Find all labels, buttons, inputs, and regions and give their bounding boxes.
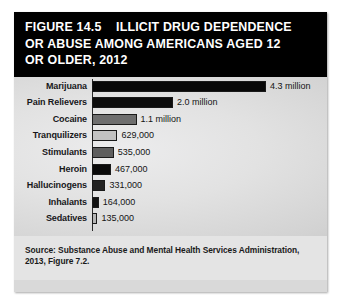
bar (92, 114, 137, 125)
bar-row: Pain Relievers2.0 million (14, 96, 327, 109)
figure-container: FIGURE 14.5 ILLICIT DRUG DEPENDENCE OR A… (14, 12, 327, 292)
bar-track: 135,000 (92, 212, 327, 225)
bar-track: 535,000 (92, 146, 327, 159)
bar-value-label: 2.0 million (173, 97, 218, 108)
bar-value-label: 535,000 (114, 147, 151, 158)
bar (92, 147, 114, 158)
bar-row: Heroin467,000 (14, 163, 327, 176)
bar-row: Hallucinogens331,000 (14, 179, 327, 192)
source-note: Source: Substance Abuse and Mental Healt… (25, 245, 315, 268)
bar-row: Cocaine1.1 million (14, 113, 327, 126)
bar (92, 164, 111, 175)
bar-category-label: Tranquilizers (14, 130, 92, 141)
bar-category-label: Stimulants (14, 147, 92, 158)
bar-value-label: 164,000 (99, 197, 136, 208)
source-panel: Source: Substance Abuse and Mental Healt… (14, 236, 327, 280)
bar-row: Marijuana4.3 million (14, 80, 327, 93)
bar-track: 2.0 million (92, 96, 327, 109)
bar-value-label: 467,000 (111, 164, 148, 175)
bar-track: 4.3 million (92, 80, 327, 93)
bar-category-label: Inhalants (14, 197, 92, 208)
bar-category-label: Cocaine (14, 114, 92, 125)
bar-value-label: 1.1 million (137, 114, 182, 125)
bar-row: Sedatives135,000 (14, 212, 327, 225)
bar-value-label: 629,000 (117, 130, 154, 141)
bar-category-label: Hallucinogens (14, 180, 92, 191)
bar-category-label: Heroin (14, 164, 92, 175)
bar-category-label: Marijuana (14, 81, 92, 92)
bar-category-label: Sedatives (14, 213, 92, 224)
bar-track: 467,000 (92, 163, 327, 176)
bar (92, 130, 117, 141)
bar (92, 180, 105, 191)
bar-chart: Marijuana4.3 millionPain Relievers2.0 mi… (14, 77, 327, 236)
bar (92, 97, 173, 108)
bar-track: 629,000 (92, 129, 327, 142)
bar (92, 81, 266, 92)
bar (92, 197, 99, 208)
bar-value-label: 4.3 million (266, 81, 311, 92)
bar-track: 1.1 million (92, 113, 327, 126)
bar-track: 331,000 (92, 179, 327, 192)
bar-track: 164,000 (92, 196, 327, 209)
bar-category-label: Pain Relievers (14, 97, 92, 108)
figure-title-block: FIGURE 14.5 ILLICIT DRUG DEPENDENCE OR A… (14, 12, 327, 77)
bar-row: Stimulants535,000 (14, 146, 327, 159)
bar-row: Inhalants164,000 (14, 196, 327, 209)
bar-value-label: 331,000 (105, 180, 142, 191)
bar-value-label: 135,000 (97, 213, 134, 224)
page-title: FIGURE 14.5 ILLICIT DRUG DEPENDENCE OR A… (25, 19, 299, 69)
bar-row: Tranquilizers629,000 (14, 129, 327, 142)
